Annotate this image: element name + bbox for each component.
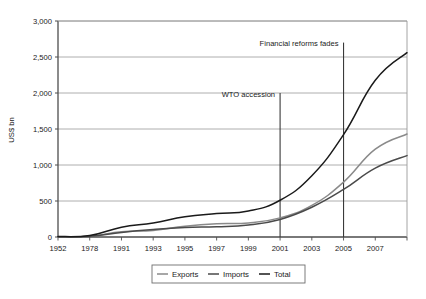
y-tick-label: 2,500 [33,53,52,62]
x-tick-label: 1978 [81,244,98,253]
y-tick-label: 0 [48,233,52,242]
y-tick-label: 500 [39,197,52,206]
legend-label-total: Total [274,270,291,279]
x-tick-label: 2007 [367,244,384,253]
y-axis-title-group: US$ bn [7,117,16,142]
x-tick-label: 1999 [240,244,257,253]
x-tick-label: 1952 [50,244,67,253]
y-tick-label: 1,500 [33,125,52,134]
x-tick-label: 2001 [272,244,289,253]
annotation-label: WTO accession [222,90,275,99]
x-tick-label: 1993 [145,244,162,253]
x-tick-label: 1991 [113,244,130,253]
y-tick-label: 3,000 [33,17,52,26]
legend-label-imports: Imports [223,270,249,279]
x-tick-label: 1995 [176,244,193,253]
x-tick-label: 2003 [303,244,320,253]
x-tick-label: 2005 [335,244,352,253]
trade-line-chart: 05001,0001,5002,0002,5003,000 1952197819… [0,0,426,299]
chart-canvas: 05001,0001,5002,0002,5003,000 1952197819… [0,0,426,299]
y-axis-title: US$ bn [7,117,16,142]
y-tick-label: 1,000 [33,161,52,170]
annotation-label: Financial reforms fades [260,39,339,48]
x-tick-label: 1997 [208,244,225,253]
legend-label-exports: Exports [172,270,199,279]
legend: ExportsImportsTotal [152,265,305,283]
chart-background [0,0,426,299]
y-tick-label: 2,000 [33,89,52,98]
